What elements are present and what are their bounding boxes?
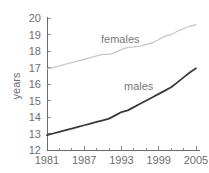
y-tick-label: 17: [29, 62, 41, 74]
x-tick-label: 2005: [184, 154, 208, 166]
series-line-males: [47, 68, 196, 135]
series-label-females: females: [101, 33, 140, 45]
series-line-females: [47, 25, 196, 70]
y-tick-label: 13: [29, 128, 41, 140]
chart-page: 201918171615141312 19811987199319992005 …: [0, 0, 209, 173]
y-tick-label: 18: [29, 45, 41, 57]
y-tick-label: 14: [29, 111, 41, 123]
y-tick-label: 15: [29, 95, 41, 107]
series-label-males: males: [124, 80, 154, 92]
x-tick-label: 1987: [72, 154, 96, 166]
line-chart: 201918171615141312 19811987199319992005 …: [0, 0, 209, 173]
y-tick-label: 20: [29, 12, 41, 24]
y-axis-title: years: [10, 72, 22, 99]
x-tick-label: 1981: [35, 154, 59, 166]
y-axis-tick-labels: 201918171615141312: [29, 12, 41, 156]
y-tick-label: 16: [29, 78, 41, 90]
x-tick-label: 1993: [109, 154, 133, 166]
y-tick-label: 19: [29, 29, 41, 41]
x-tick-label: 1999: [147, 154, 171, 166]
x-axis-tick-labels: 19811987199319992005: [35, 154, 208, 166]
